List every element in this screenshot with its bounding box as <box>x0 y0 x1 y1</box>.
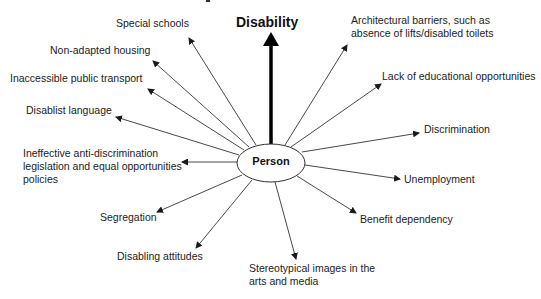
label-ineffective-legislation-line3: policies <box>23 173 182 186</box>
label-disablist-language: Disablist language <box>26 104 112 117</box>
label-special-schools: Special schools <box>116 17 189 30</box>
person-label: Person <box>237 155 305 167</box>
arrow-discrimination <box>302 133 419 152</box>
label-discrimination: Discrimination <box>424 123 490 136</box>
disability-label: Disability <box>236 14 298 30</box>
label-stereotypical-images: Stereotypical images in the arts and med… <box>249 262 375 288</box>
label-segregation: Segregation <box>100 211 157 224</box>
label-architectural-barriers-line2: absence of lifts/disabled toilets <box>351 27 493 40</box>
label-benefit-dependency: Benefit dependency <box>360 213 453 226</box>
label-ineffective-legislation-line2: legislation and equal opportunities <box>23 160 182 173</box>
arrow-lack-educational <box>291 84 381 147</box>
label-non-adapted-housing: Non-adapted housing <box>50 44 150 57</box>
arrow-unemployment <box>305 165 400 179</box>
label-stereotypical-images-line1: Stereotypical images in the <box>249 262 375 275</box>
label-unemployment: Unemployment <box>404 173 475 186</box>
label-disabling-attitudes: Disabling attitudes <box>117 250 203 263</box>
arrow-non-adapted-housing <box>153 61 249 147</box>
label-architectural-barriers: Architectural barriers, such as absence … <box>351 14 493 40</box>
label-ineffective-legislation: Ineffective anti-discrimination legislat… <box>23 147 182 186</box>
label-inaccessible-transport: Inaccessible public transport <box>10 72 143 85</box>
arrow-benefit-dependency <box>297 176 356 213</box>
arrow-inaccessible-transport <box>148 89 244 150</box>
arrow-special-schools <box>189 38 256 145</box>
label-architectural-barriers-line1: Architectural barriers, such as <box>351 14 493 27</box>
label-lack-educational: Lack of educational opportunities <box>382 70 536 83</box>
arrow-stereotypical-images <box>275 182 296 259</box>
label-stereotypical-images-line2: arts and media <box>249 275 375 288</box>
label-ineffective-legislation-line1: Ineffective anti-discrimination <box>23 147 182 160</box>
arrow-disabling-attitudes <box>196 180 252 248</box>
